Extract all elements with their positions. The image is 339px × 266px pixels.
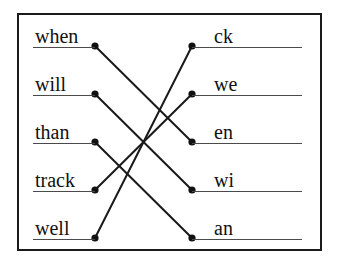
answer-rule [33,95,95,96]
item-label: when [35,26,78,46]
item-label: en [214,122,233,142]
answer-rule [33,47,95,48]
word-item-than[interactable]: than [33,110,95,144]
item-label: an [214,218,233,238]
word-item-will[interactable]: will [33,62,95,96]
item-label: than [35,122,69,142]
item-label: wi [214,170,234,190]
matching-worksheet: whenwillthantrackwell ckweenwian [0,0,339,266]
wordpart-item-an[interactable]: an [192,206,302,240]
word-item-when[interactable]: when [33,14,95,48]
answer-rule [192,95,302,96]
item-label: will [35,74,66,94]
wordpart-item-ck[interactable]: ck [192,14,302,48]
item-label: we [214,74,237,94]
answer-rule [192,47,302,48]
word-item-well[interactable]: well [33,206,95,240]
item-label: well [35,218,69,238]
answer-rule [192,143,302,144]
wordpart-item-we[interactable]: we [192,62,302,96]
wordpart-item-wi[interactable]: wi [192,158,302,192]
word-item-track[interactable]: track [33,158,95,192]
answer-rule [33,239,95,240]
answer-rule [33,143,95,144]
answer-rule [33,191,95,192]
item-label: track [35,170,75,190]
answer-rule [192,191,302,192]
item-label: ck [214,26,233,46]
answer-rule [192,239,302,240]
wordpart-item-en[interactable]: en [192,110,302,144]
